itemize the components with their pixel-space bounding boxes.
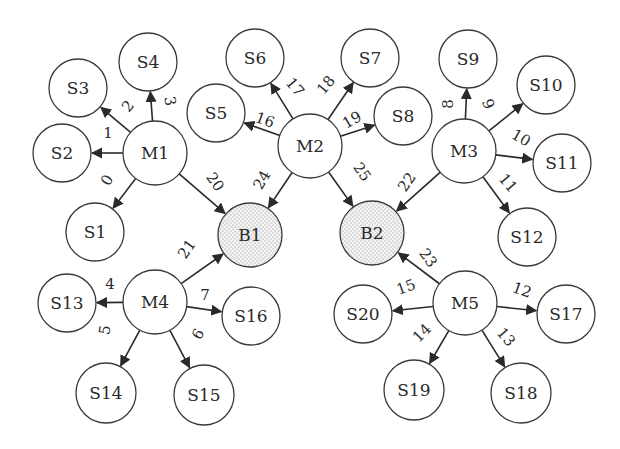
edge-m2-s6: 17 [271,74,308,119]
edge-m4-s14: 5 [95,324,140,366]
edge-label: 12 [510,278,534,301]
node-m2: M2 [278,114,342,178]
edge-m3-s12: 11 [483,170,521,213]
node-label: S4 [137,52,159,72]
edge-m1-b1: 20 [179,169,228,213]
node-label: S9 [457,49,479,69]
node-m4: M4 [123,270,187,334]
node-m5: M5 [433,271,497,335]
edge-m5-s18: 13 [482,324,519,367]
node-s19: S19 [384,360,444,420]
edge-label: 17 [282,74,308,100]
node-label: S19 [397,380,430,400]
edge-m4-s15: 6 [170,325,208,367]
edge-m4-s16: 7 [187,286,222,312]
node-b1: B1 [218,203,282,267]
edge-label: 1 [103,124,113,142]
node-label: B1 [238,225,261,245]
node-label: S6 [244,48,266,68]
edge-label: 22 [394,169,420,195]
node-label: S12 [510,227,543,247]
node-s7: S7 [341,29,399,87]
edge-label: 7 [200,286,210,304]
arrow-icon [113,178,136,208]
node-s4: S4 [119,33,177,91]
node-label: M5 [451,293,479,313]
edge-label: 25 [349,159,375,185]
node-s10: S10 [517,56,575,114]
node-s12: S12 [498,208,556,266]
edge-label: 9 [478,96,498,111]
edge-label: 2 [118,97,138,116]
node-label: S17 [549,304,582,324]
edge-label: 4 [105,275,115,293]
arrow-icon [497,306,536,310]
node-label: M3 [450,141,478,161]
arrow-icon [121,330,140,366]
edge-m5-s17: 12 [497,278,536,310]
edge-m3-b2: 22 [394,169,440,211]
edge-m4-b1: 21 [174,236,223,284]
edge-label: 5 [95,324,114,337]
node-b2: B2 [340,201,404,265]
edge-label: 14 [409,320,435,346]
node-label: S5 [205,103,227,123]
edge-m5-s20: 15 [393,275,433,311]
node-s13: S13 [38,274,96,332]
node-label: S16 [234,306,267,326]
edge-label: 15 [394,275,418,298]
edge-m4-s13: 4 [97,275,123,303]
edge-label: 3 [160,95,179,108]
node-label: M2 [296,136,324,156]
arrow-icon [393,306,433,310]
node-m1: M1 [123,121,187,185]
node-label: S1 [84,222,106,242]
arrow-icon [496,155,532,159]
arrow-icon [329,172,353,206]
edge-label: 11 [495,170,521,196]
edge-m3-s9: 8 [439,89,467,119]
node-s11: S11 [533,134,591,192]
node-s15: S15 [174,365,234,425]
edge-m3-s11: 10 [496,125,534,159]
node-m3: M3 [432,119,496,183]
edge-m1-s1: 0 [97,171,136,208]
edge-label: 21 [174,236,200,262]
edge-m2-b1: 24 [249,167,292,207]
edge-m1-s4: 3 [150,92,179,121]
node-label: S13 [50,293,83,313]
node-label: S18 [504,383,537,403]
node-label: S14 [89,383,122,403]
node-label: S7 [359,48,381,68]
node-s8: S8 [374,87,432,145]
node-s18: S18 [491,363,551,423]
node-s16: S16 [222,287,280,345]
edge-label: 6 [188,325,208,342]
node-s9: S9 [439,30,497,88]
edge-m1-s2: 1 [92,124,123,153]
node-label: S2 [51,143,73,163]
edge-label: 20 [202,169,228,195]
node-label: B2 [360,223,383,243]
node-label: S11 [545,153,578,173]
node-s17: S17 [537,285,595,343]
edge-label: 18 [313,72,339,98]
flow-diagram: 0123456789101112131415161718192021222324… [0,0,620,449]
edge-m2-s8: 19 [339,107,374,136]
edge-label: 10 [508,125,534,150]
edge-label: 24 [249,167,274,193]
node-s14: S14 [76,363,136,423]
edge-label: 23 [415,245,441,271]
arrow-icon [430,331,449,364]
node-label: M1 [141,143,169,163]
node-label: S8 [392,106,414,126]
edge-label: 8 [439,99,457,109]
node-label: S3 [67,78,89,98]
arrow-icon [170,330,190,367]
node-s20: S20 [334,285,392,343]
node-s2: S2 [33,124,91,182]
edge-label: 16 [253,108,277,131]
node-label: S10 [529,75,562,95]
node-s6: S6 [226,29,284,87]
node-label: S20 [346,304,379,324]
